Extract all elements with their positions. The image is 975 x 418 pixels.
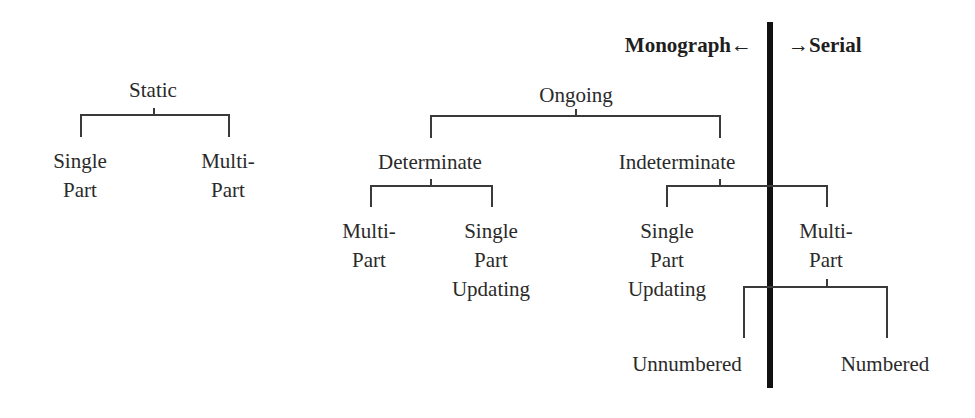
connector xyxy=(826,279,828,287)
connector xyxy=(719,179,721,186)
connector xyxy=(80,114,82,137)
connector xyxy=(575,109,577,116)
connector xyxy=(666,185,827,187)
connector xyxy=(666,185,668,207)
node-determinate-single-part-updating: Single Part Updating xyxy=(452,217,530,304)
node-indeterminate-single-part-updating: Single Part Updating xyxy=(628,217,706,304)
node-ongoing: Ongoing xyxy=(539,81,613,110)
connector xyxy=(80,114,229,116)
node-numbered: Numbered xyxy=(841,350,930,379)
serial-label: →Serial xyxy=(788,31,862,60)
connector xyxy=(886,286,888,338)
node-determinate: Determinate xyxy=(378,148,482,177)
connector xyxy=(719,115,721,138)
connector xyxy=(430,179,432,186)
connector xyxy=(491,185,493,207)
node-static-single-part: Single Part xyxy=(53,147,107,205)
connector xyxy=(370,185,372,207)
node-static-multi-part: Multi- Part xyxy=(201,147,255,205)
node-indeterminate: Indeterminate xyxy=(619,148,736,177)
monograph-label: Monograph← xyxy=(625,31,752,60)
node-determinate-multi-part: Multi- Part xyxy=(342,217,396,275)
connector xyxy=(430,115,432,138)
connector xyxy=(743,286,887,288)
node-unnumbered: Unnumbered xyxy=(632,350,742,379)
connector xyxy=(153,108,155,115)
monograph-serial-divider xyxy=(767,22,773,388)
node-indeterminate-multi-part: Multi- Part xyxy=(799,217,853,275)
connector xyxy=(228,114,230,137)
connector xyxy=(826,185,828,207)
node-static: Static xyxy=(129,76,177,105)
connector xyxy=(743,286,745,338)
